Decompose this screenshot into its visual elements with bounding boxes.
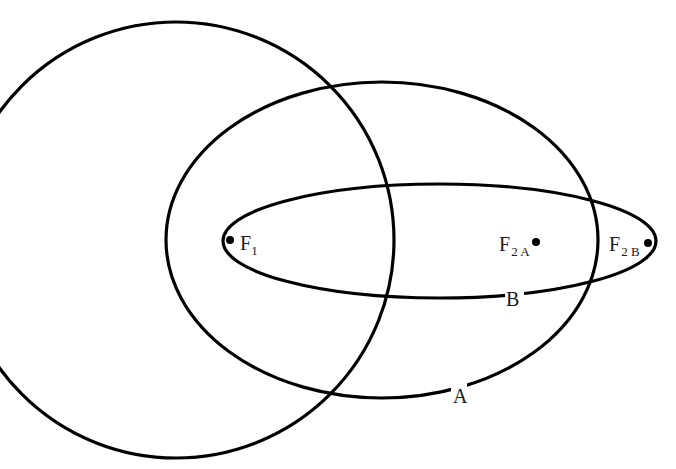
- focus-f2b-label: F2 B: [609, 233, 640, 259]
- focus-f1-sub: 1: [251, 243, 258, 258]
- focus-f2a-dot: [532, 238, 540, 246]
- focus-f2b-sub: 2 B: [621, 244, 640, 259]
- focus-f2b-main: F: [609, 233, 620, 255]
- focus-f1-main: F: [240, 232, 251, 254]
- focus-f1-label: F1: [240, 232, 258, 258]
- focus-f2a-sub: 2 A: [511, 244, 530, 259]
- ellipse-b-label: B: [506, 288, 519, 310]
- ellipse-diagram: F1 F2 A F2 B A B: [0, 0, 676, 469]
- circular-orbit: [0, 22, 394, 458]
- ellipse-b: [223, 184, 656, 298]
- focus-f1-dot: [226, 236, 234, 244]
- focus-f2a-main: F: [499, 233, 510, 255]
- focus-f2b-dot: [644, 239, 652, 247]
- ellipse-a-label: A: [453, 385, 468, 407]
- focus-f2a-label: F2 A: [499, 233, 530, 259]
